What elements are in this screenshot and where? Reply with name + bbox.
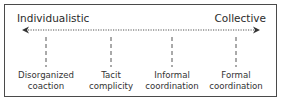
stage-label-line1: Informal [137, 70, 207, 81]
stage-label-line1: Formal [201, 70, 271, 81]
stage-tacit-complicity: Tacit complicity [76, 70, 146, 92]
stage-label-line2: coordination [137, 81, 207, 92]
stage-disorganized-coaction: Disorganized coaction [11, 70, 81, 92]
collective-label: Collective [214, 12, 266, 24]
stage-label-line2: coaction [11, 81, 81, 92]
stage-divider-4 [235, 37, 237, 67]
stage-formal-coordination: Formal coordination [201, 70, 271, 92]
spectrum-arrow [22, 24, 260, 36]
individualistic-label: Individualistic [17, 12, 89, 24]
stage-label-line2: complicity [76, 81, 146, 92]
stage-label-line2: coordination [201, 81, 271, 92]
stage-divider-2 [110, 37, 112, 67]
stage-informal-coordination: Informal coordination [137, 70, 207, 92]
stage-divider-3 [171, 37, 173, 67]
stage-divider-1 [45, 37, 47, 67]
arrow-right-icon [253, 27, 260, 34]
stage-label-line1: Disorganized [11, 70, 81, 81]
stage-label-line1: Tacit [76, 70, 146, 81]
arrow-left-icon [22, 27, 29, 34]
